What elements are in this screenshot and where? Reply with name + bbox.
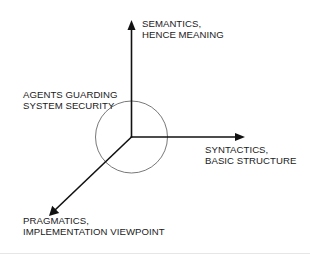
pragmatics-label-line2: IMPLEMENTATION VIEWPOINT (23, 227, 165, 238)
syntactics-label-line2: BASIC STRUCTURE (205, 156, 296, 167)
center-label-line2: SYSTEM SECURITY (23, 101, 118, 112)
center-label-line1: AGENTS GUARDING (23, 90, 118, 101)
bottom-divider (0, 253, 310, 254)
semantics-axis-arrow (128, 20, 136, 138)
semantics-label: SEMANTICS, HENCE MEANING (142, 19, 224, 40)
pragmatics-axis-arrow (49, 137, 132, 217)
syntactics-label-line1: SYNTACTICS, (205, 145, 296, 156)
center-label: AGENTS GUARDING SYSTEM SECURITY (23, 90, 118, 111)
semantics-label-line1: SEMANTICS, (142, 19, 224, 30)
pragmatics-label-line1: PRAGMATICS, (23, 216, 165, 227)
syntactics-label: SYNTACTICS, BASIC STRUCTURE (205, 145, 296, 166)
syntactics-axis-arrow (131, 133, 245, 141)
pragmatics-label: PRAGMATICS, IMPLEMENTATION VIEWPOINT (23, 216, 165, 237)
semantics-label-line2: HENCE MEANING (142, 30, 224, 41)
